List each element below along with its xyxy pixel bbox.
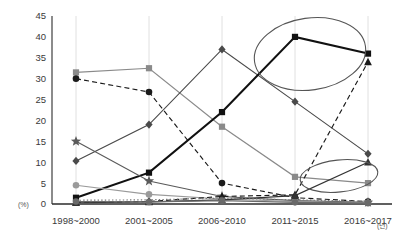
y-tick-25: 25: [35, 94, 46, 105]
circle-marker: [146, 191, 153, 198]
x-tick-0: 1998~2000: [52, 215, 100, 226]
x-tick-2: 2006~2010: [198, 215, 246, 226]
square-marker: [219, 124, 225, 130]
circle-marker: [219, 197, 226, 204]
y-tick-30: 30: [35, 73, 46, 84]
x-axis-unit-label: (년): [377, 221, 388, 230]
line-chart: 051015202530354045 1998~20002001~2005200…: [0, 0, 402, 246]
y-tick-20: 20: [35, 115, 46, 126]
y-tick-40: 40: [35, 31, 46, 42]
circle-marker: [73, 75, 80, 82]
square-marker: [146, 65, 152, 71]
circle-marker: [365, 200, 372, 207]
y-tick-5: 5: [41, 178, 46, 189]
square-marker: [73, 69, 79, 75]
square-marker: [292, 174, 298, 180]
square-marker: [292, 34, 298, 40]
circle-marker: [292, 199, 299, 206]
circle-marker: [73, 182, 80, 189]
x-tick-3: 2011~2015: [271, 215, 318, 226]
circle-marker: [146, 199, 153, 206]
square-marker: [146, 170, 152, 176]
circle-marker: [146, 89, 153, 96]
highlight-ellipse-upper: [250, 11, 371, 98]
y-tick-15: 15: [35, 136, 46, 147]
y-tick-10: 10: [35, 157, 46, 168]
circle-marker: [219, 180, 226, 187]
y-tick-35: 35: [35, 52, 46, 63]
square-marker: [219, 109, 225, 115]
diamond-marker: [291, 98, 298, 106]
x-tick-labels: 1998~20002001~20052006~20102011~20152016…: [52, 215, 392, 226]
annotation-layer: [250, 11, 380, 196]
triangle-marker: [364, 58, 372, 66]
y-tick-45: 45: [35, 10, 46, 21]
y-tick-0: 0: [41, 198, 46, 209]
circle-marker: [73, 198, 80, 205]
y-axis-unit-label: (%): [18, 201, 29, 209]
chart-container: 051015202530354045 1998~20002001~2005200…: [0, 0, 402, 246]
diamond-marker: [364, 150, 371, 158]
y-tick-labels: 051015202530354045: [35, 10, 46, 209]
diamond-marker: [72, 157, 79, 165]
x-tick-1: 2001~2005: [125, 215, 173, 226]
